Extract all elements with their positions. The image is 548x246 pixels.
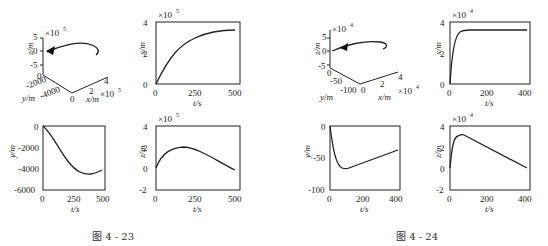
svg-text:5: 5 — [118, 87, 121, 93]
svg-text:0: 0 — [322, 46, 327, 56]
svg-text:4: 4 — [143, 122, 148, 132]
fig23-3d-panel: 5 ×105 0 -5 z/m 0 -2000 -4000 y/m 0 2 4 … — [21, 26, 121, 104]
svg-text:4: 4 — [416, 84, 419, 90]
fig24-y-panel: 0 -50 -100 y/m 0 200 400 t/s — [302, 122, 403, 214]
fig23-z-panel: 4 2 0 -2 ×105 z/m 0 250 500 t/s — [137, 112, 242, 214]
svg-text:×10: ×10 — [452, 114, 467, 124]
figure-canvas: 5 ×105 0 -5 z/m 0 -2000 -4000 y/m 0 2 4 … — [0, 0, 548, 246]
svg-text:0: 0 — [440, 164, 445, 174]
svg-text:z/m: z/m — [433, 145, 443, 159]
svg-text:250: 250 — [188, 194, 202, 204]
svg-text:-4000: -4000 — [18, 164, 39, 174]
svg-text:×10: ×10 — [45, 28, 60, 38]
svg-text:z/m: z/m — [137, 145, 147, 159]
svg-text:4: 4 — [440, 18, 445, 28]
svg-text:4: 4 — [104, 76, 109, 86]
svg-text:4: 4 — [470, 112, 473, 118]
svg-text:0: 0 — [143, 164, 148, 174]
svg-text:×10: ×10 — [332, 24, 347, 34]
svg-text:x/m: x/m — [377, 92, 391, 102]
svg-text:×10: ×10 — [452, 10, 467, 20]
svg-text:0: 0 — [153, 194, 158, 204]
svg-text:200: 200 — [480, 88, 494, 98]
fig24-x-panel: 4 2 0 ×104 x/m 0 200 400 t/s — [433, 8, 532, 108]
fig24-3d-panel: 5 ×104 0 -5 z/m 0 -50 -100 y/m 0 2 4 x/m… — [312, 22, 419, 102]
svg-text:0: 0 — [321, 122, 326, 132]
figure-caption-4-23: 图 4 - 23 — [92, 228, 134, 243]
svg-text:0: 0 — [361, 85, 366, 95]
svg-text:t/s: t/s — [193, 98, 202, 108]
svg-text:t/s: t/s — [485, 98, 494, 108]
svg-text:5: 5 — [33, 32, 38, 42]
svg-text:×10: ×10 — [100, 89, 115, 99]
svg-text:2: 2 — [380, 79, 385, 89]
svg-text:0: 0 — [153, 88, 158, 98]
svg-text:-2: -2 — [436, 185, 444, 195]
svg-text:0: 0 — [447, 194, 452, 204]
svg-text:x/m: x/m — [85, 94, 99, 104]
svg-text:x/m: x/m — [137, 42, 147, 56]
svg-text:×10: ×10 — [158, 10, 173, 20]
fig23-x-panel: 4 2 0 ×105 x/m 0 250 500 t/s — [137, 8, 242, 108]
svg-text:4: 4 — [398, 72, 403, 82]
svg-text:-2: -2 — [139, 185, 147, 195]
svg-text:t/s: t/s — [71, 204, 80, 214]
svg-text:×10: ×10 — [398, 86, 413, 96]
svg-text:0: 0 — [70, 94, 75, 104]
svg-text:t/s: t/s — [360, 204, 369, 214]
svg-text:400: 400 — [389, 194, 403, 204]
svg-text:×10: ×10 — [158, 114, 173, 124]
svg-text:z/m: z/m — [312, 42, 322, 56]
svg-text:-5: -5 — [318, 61, 326, 71]
svg-text:x/m: x/m — [433, 42, 443, 56]
svg-text:250: 250 — [188, 88, 202, 98]
svg-text:200: 200 — [480, 194, 494, 204]
svg-text:0: 0 — [143, 80, 148, 90]
svg-text:500: 500 — [96, 194, 110, 204]
svg-text:-100: -100 — [340, 85, 357, 95]
svg-text:-50: -50 — [313, 153, 325, 163]
svg-text:500: 500 — [228, 88, 242, 98]
svg-text:500: 500 — [228, 194, 242, 204]
svg-text:400: 400 — [518, 88, 532, 98]
svg-text:200: 200 — [356, 194, 370, 204]
svg-text:y/m: y/m — [319, 92, 333, 102]
svg-text:z/m: z/m — [25, 42, 35, 56]
svg-text:5: 5 — [176, 8, 179, 14]
svg-text:-6000: -6000 — [14, 185, 35, 195]
svg-text:4: 4 — [470, 8, 473, 14]
svg-text:y/m: y/m — [7, 145, 17, 159]
svg-text:250: 250 — [67, 194, 81, 204]
svg-text:y/m: y/m — [21, 93, 35, 103]
svg-text:0: 0 — [447, 88, 452, 98]
svg-text:0: 0 — [327, 194, 332, 204]
svg-text:-100: -100 — [308, 185, 325, 195]
svg-text:0: 0 — [40, 194, 45, 204]
svg-text:t/s: t/s — [193, 204, 202, 214]
fig23-y-panel: 0 -2000 -4000 -6000 y/m 0 250 500 t/s — [7, 122, 110, 214]
svg-text:0: 0 — [440, 80, 445, 90]
svg-text:4: 4 — [440, 122, 445, 132]
svg-text:5: 5 — [63, 26, 66, 32]
svg-text:5: 5 — [322, 32, 327, 42]
svg-text:4: 4 — [350, 22, 353, 28]
fig24-z-panel: 4 2 0 -2 ×104 z/m 0 200 400 t/s — [433, 112, 532, 214]
svg-text:-4000: -4000 — [38, 84, 62, 101]
svg-text:t/s: t/s — [485, 204, 494, 214]
figure-caption-4-24: 图 4 - 24 — [396, 228, 438, 243]
svg-text:-5: -5 — [30, 60, 38, 70]
svg-text:4: 4 — [143, 18, 148, 28]
svg-text:5: 5 — [176, 112, 179, 118]
svg-text:y/m: y/m — [302, 145, 312, 159]
svg-text:400: 400 — [518, 194, 532, 204]
svg-text:0: 0 — [34, 122, 39, 132]
svg-text:-2000: -2000 — [18, 143, 39, 153]
